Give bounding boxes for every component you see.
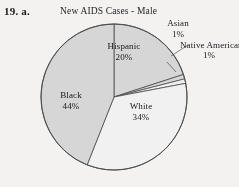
slice-label-white-name: White xyxy=(130,101,153,111)
slice-label-asian-name: Asian xyxy=(167,18,189,28)
slice-label-asian-value: 1% xyxy=(156,29,200,40)
slice-label-black: Black 44% xyxy=(46,90,96,111)
slice-label-hispanic: Hispanic 20% xyxy=(96,41,152,62)
slice-label-black-name: Black xyxy=(60,90,82,100)
slice-label-hispanic-value: 20% xyxy=(96,52,152,63)
slice-label-black-value: 44% xyxy=(46,101,96,112)
slice-label-native-american-value: 1% xyxy=(180,50,238,60)
slice-label-native-american-name: Native American xyxy=(180,40,239,50)
slice-label-native-american: Native American 1% xyxy=(180,40,238,60)
slice-label-white-value: 34% xyxy=(116,112,166,123)
slice-label-white: White 34% xyxy=(116,101,166,122)
pie-chart xyxy=(0,0,239,187)
figure-container: 19. a. New AIDS Cases - Male Hispanic 20… xyxy=(0,0,239,187)
slice-label-asian: Asian 1% xyxy=(156,18,200,39)
slice-label-hispanic-name: Hispanic xyxy=(108,41,141,51)
